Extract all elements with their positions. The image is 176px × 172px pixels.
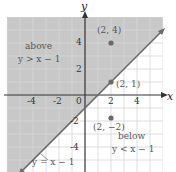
y-tick: -4 bbox=[70, 142, 79, 152]
inequality-graph: x y -4 -2 0 2 4 4 2 -2 -4 above y > x − … bbox=[0, 0, 176, 172]
y-axis-label: y bbox=[80, 0, 88, 13]
x-tick: 4 bbox=[134, 96, 140, 106]
point-2-4 bbox=[108, 40, 113, 45]
point-label: (2, −2) bbox=[93, 122, 125, 132]
x-tick: 0 bbox=[76, 96, 82, 106]
point-label: (2, 1) bbox=[116, 79, 140, 89]
x-axis-label: x bbox=[167, 90, 174, 103]
y-tick: 4 bbox=[76, 37, 82, 47]
below-inequality: y < x − 1 bbox=[111, 144, 154, 154]
y-tick: 2 bbox=[76, 64, 82, 74]
point-2-neg2 bbox=[108, 115, 113, 120]
above-inequality: y > x − 1 bbox=[17, 54, 60, 64]
point-2-1 bbox=[108, 79, 113, 84]
line-equation-label: y = x − 1 bbox=[31, 157, 74, 167]
point-label: (2, 4) bbox=[97, 25, 121, 35]
y-tick: -2 bbox=[70, 116, 79, 126]
x-tick: 2 bbox=[108, 96, 114, 106]
x-tick: -4 bbox=[27, 96, 36, 106]
x-tick: -2 bbox=[53, 96, 62, 106]
below-label: below bbox=[118, 131, 145, 141]
above-label: above bbox=[25, 41, 52, 51]
